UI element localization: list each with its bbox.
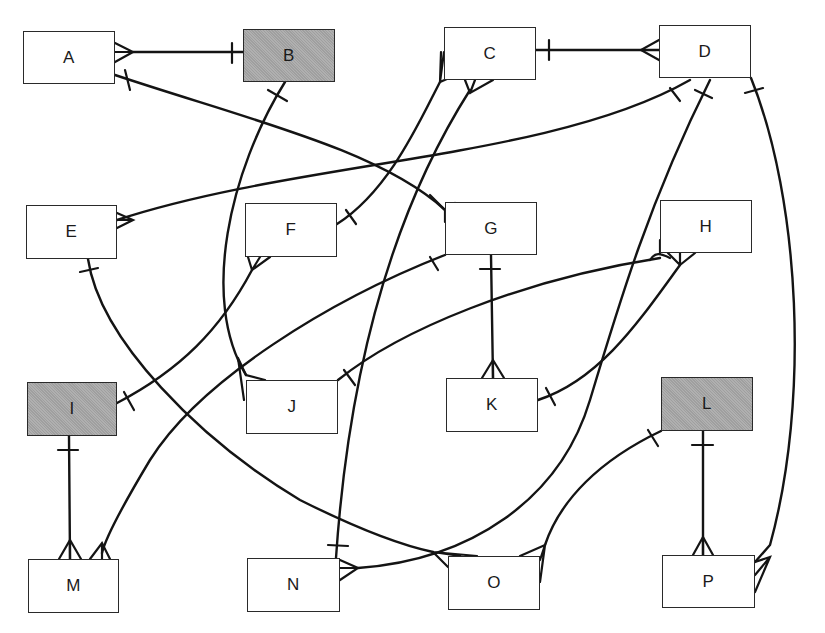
entity-o-label: O: [487, 573, 501, 593]
entity-m-label: M: [66, 576, 81, 596]
relationship-a-b: [115, 43, 243, 63]
entity-f-label: F: [286, 220, 297, 240]
relationship-a-g: [115, 70, 455, 222]
entity-j[interactable]: J: [246, 380, 338, 434]
relationship-d-p: [745, 78, 795, 592]
entity-d-label: D: [699, 42, 712, 62]
entity-p[interactable]: P: [662, 555, 755, 608]
er-diagram-canvas: A B C D E F G H I J K L M N O P: [0, 0, 825, 633]
entity-k-label: K: [486, 395, 498, 415]
relationship-d-n: [340, 80, 712, 580]
entity-a-label: A: [63, 48, 75, 68]
relationship-g-k: [480, 255, 504, 378]
entity-c[interactable]: C: [444, 27, 536, 80]
relationship-j-h: [338, 240, 670, 385]
entity-h[interactable]: H: [660, 200, 752, 253]
entity-e[interactable]: E: [26, 205, 117, 259]
entity-b-label: B: [283, 46, 295, 66]
entity-i-label: I: [69, 399, 74, 419]
entity-o[interactable]: O: [448, 556, 540, 610]
relationship-lines: [0, 0, 825, 633]
relationship-c-d: [536, 40, 659, 60]
entity-h-label: H: [700, 217, 713, 237]
entity-l[interactable]: L: [661, 377, 753, 431]
entity-i[interactable]: I: [27, 382, 117, 436]
entity-c-label: C: [484, 44, 497, 64]
relationship-n-c: [328, 80, 493, 558]
entity-l-label: L: [702, 394, 712, 414]
entity-n[interactable]: N: [247, 558, 340, 612]
relationship-i-m: [58, 436, 81, 559]
entity-m[interactable]: M: [28, 559, 119, 613]
entity-f[interactable]: F: [245, 203, 337, 257]
entity-g-label: G: [484, 219, 498, 239]
entity-a[interactable]: A: [23, 31, 115, 84]
entity-n-label: N: [287, 575, 300, 595]
entity-p-label: P: [703, 572, 715, 592]
relationship-l-p: [692, 431, 713, 555]
relationship-f-c: [337, 52, 456, 224]
entity-k[interactable]: K: [446, 378, 538, 432]
relationship-l-o: [520, 430, 661, 582]
entity-g[interactable]: G: [445, 202, 537, 255]
entity-j-label: J: [288, 397, 297, 417]
entity-e-label: E: [66, 222, 78, 242]
entity-b[interactable]: B: [243, 29, 335, 82]
entity-d[interactable]: D: [659, 25, 751, 78]
